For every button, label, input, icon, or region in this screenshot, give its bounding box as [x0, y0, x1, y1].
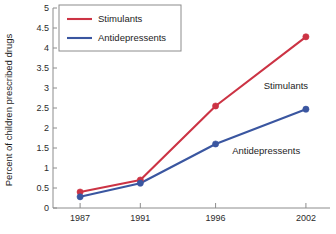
y-tick-label: 5	[44, 3, 49, 13]
y-tick-label: 0.5	[36, 183, 49, 193]
legend-label-stimulants: Stimulants	[98, 13, 143, 24]
x-tick-label: 2002	[296, 213, 316, 223]
y-tick-label: 1	[44, 163, 49, 173]
x-tick-label: 1987	[70, 213, 90, 223]
y-tick-label: 1.5	[36, 143, 49, 153]
data-point	[137, 180, 143, 186]
chart-figure: Percent of children prescribed drugs 00.…	[0, 0, 336, 234]
legend: Stimulants Antidepressents	[59, 5, 181, 51]
legend-label-antidepressents: Antidepressents	[98, 32, 166, 43]
y-tick-label: 4	[44, 43, 49, 53]
line-chart: Percent of children prescribed drugs 00.…	[0, 0, 336, 234]
annotation-antidepressents: Antidepressents	[232, 145, 300, 156]
data-point	[77, 194, 83, 200]
x-tick-label: 1996	[206, 213, 226, 223]
data-point	[212, 141, 218, 147]
x-tick-label: 1991	[130, 213, 150, 223]
data-point	[303, 106, 309, 112]
legend-box	[59, 5, 181, 51]
y-axis-title: Percent of children prescribed drugs	[3, 33, 14, 186]
y-tick-label: 0	[44, 203, 49, 213]
y-tick-label: 3.5	[36, 63, 49, 73]
annotation-stimulants: Stimulants	[264, 80, 309, 91]
y-tick-label: 2.5	[36, 103, 49, 113]
y-tick-label: 2	[44, 123, 49, 133]
data-point	[303, 34, 309, 40]
data-point	[212, 103, 218, 109]
y-tick-label: 3	[44, 83, 49, 93]
y-tick-label: 4.5	[36, 23, 49, 33]
